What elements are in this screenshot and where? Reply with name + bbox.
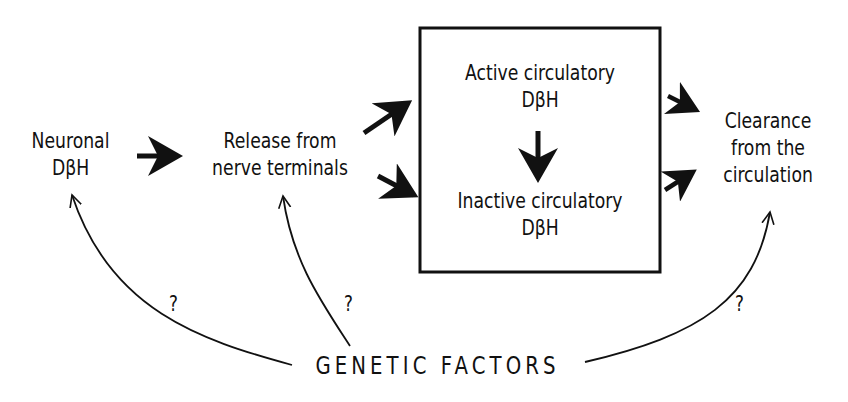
node-label: circulation: [702, 162, 833, 189]
arrow-inactive-to-clearance: [665, 172, 693, 190]
arrow-genetic-to-release: [283, 196, 350, 346]
diagram-arrows: [0, 0, 848, 402]
arrow-release-to-active: [364, 103, 408, 133]
arrow-release-to-inactive: [378, 176, 414, 195]
arrow-genetic-to-neuronal: [72, 195, 292, 365]
node-label: Clearance: [702, 108, 833, 135]
node-label: Neuronal: [19, 128, 122, 155]
node-label: nerve terminals: [198, 155, 362, 182]
node-active-circulatory: Active circulatory DβH: [442, 60, 639, 114]
node-release: Release from nerve terminals: [198, 128, 362, 182]
arrow-active-to-clearance: [668, 96, 696, 110]
node-inactive-circulatory: Inactive circulatory DβH: [433, 188, 646, 242]
node-label: DβH: [433, 215, 646, 242]
genetic-factors-label: GENETIC FACTORS: [292, 352, 583, 380]
question-mark-release: ?: [344, 292, 353, 316]
node-label: DβH: [442, 87, 639, 114]
node-neuronal-dbh: Neuronal DβH: [19, 128, 122, 182]
question-mark-neuronal: ?: [169, 292, 178, 316]
node-label: Active circulatory: [442, 60, 639, 87]
node-clearance: Clearance from the circulation: [702, 108, 833, 189]
node-label: Release from: [198, 128, 362, 155]
node-label: DβH: [19, 155, 122, 182]
node-label: from the: [702, 135, 833, 162]
node-label: Inactive circulatory: [433, 188, 646, 215]
question-mark-clearance: ?: [735, 292, 744, 316]
